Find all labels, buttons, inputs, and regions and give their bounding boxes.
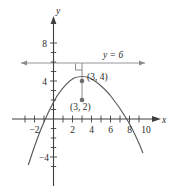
x-tick-label-8: 8: [127, 125, 132, 135]
x-tick-label-4: 4: [89, 125, 94, 135]
line-y-equals-6: [21, 61, 145, 66]
y-tick-label-4: 4: [42, 77, 47, 87]
x-tick-label-6: 6: [108, 125, 113, 135]
x-axis: [12, 116, 161, 123]
y-axis: [50, 16, 57, 186]
point-label-3-2: (3, 2): [70, 102, 91, 113]
point-label-3-4: (3, 4): [87, 72, 108, 83]
y-axis-arrowhead: [51, 16, 57, 24]
y-tick-label-neg4: −4: [39, 153, 49, 163]
line-left-arrowhead: [21, 61, 27, 66]
right-angle-icon: [76, 64, 83, 71]
coordinate-plane: y x 8 4 −4 −2 2 4 6 8 10 y = 6 (3, 4) (3…: [0, 0, 175, 190]
y-axis-label: y: [55, 6, 61, 16]
point-3-4: [80, 79, 85, 84]
x-axis-label: x: [161, 115, 167, 125]
x-tick-label-2: 2: [70, 125, 75, 135]
y-tick-label-8: 8: [42, 39, 47, 49]
line-equation-label: y = 6: [102, 50, 123, 60]
x-tick-label-neg2: −2: [29, 125, 39, 135]
x-axis-arrowhead: [152, 116, 161, 122]
graph-figure: y x 8 4 −4 −2 2 4 6 8 10 y = 6 (3, 4) (3…: [0, 0, 175, 190]
x-tick-label-10: 10: [141, 125, 151, 135]
line-right-arrowhead: [139, 61, 145, 66]
